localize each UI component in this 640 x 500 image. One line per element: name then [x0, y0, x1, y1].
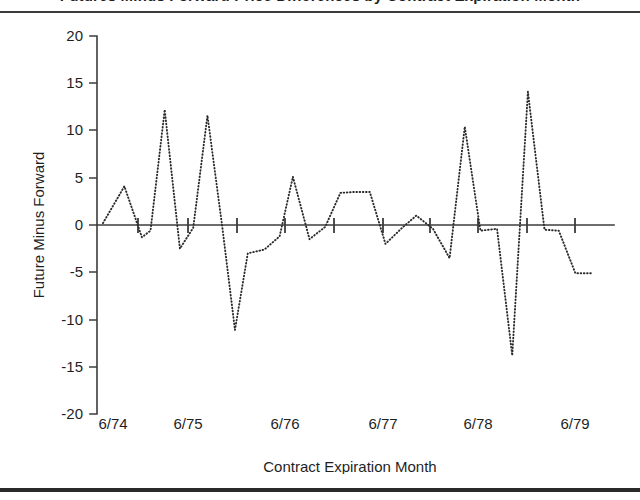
- figure-title-clipped: Futures Minus Forward Price Differences …: [0, 0, 640, 5]
- x-tick-label-677: 6/77: [368, 415, 397, 432]
- x-tick-label-675: 6/75: [173, 415, 202, 432]
- x-tick-label-676: 6/76: [270, 415, 299, 432]
- y-tick-label-neg5: -5: [70, 263, 83, 280]
- plot-area: 20 15 10 5 0 -5 -10 -15 -20 6/74 6/75 6/…: [0, 14, 640, 474]
- x-axis-title: Contract Expiration Month: [263, 458, 436, 474]
- y-tick-label-15: 15: [66, 74, 83, 91]
- top-horizontal-rule: [0, 11, 640, 13]
- figure-title-text: Futures Minus Forward Price Differences …: [60, 0, 580, 4]
- y-tick-label-20: 20: [66, 27, 83, 44]
- y-tick-label-0: 0: [75, 216, 83, 233]
- chart-figure: Futures Minus Forward Price Differences …: [0, 0, 640, 500]
- series-line-future-minus-forward: [103, 92, 592, 356]
- bottom-horizontal-rule: [0, 488, 640, 492]
- y-tick-label-neg10: -10: [61, 311, 83, 328]
- x-tick-label-678: 6/78: [463, 415, 492, 432]
- y-axis-title: Future Minus Forward: [30, 152, 47, 299]
- y-tick-label-neg15: -15: [61, 358, 83, 375]
- y-tick-label-neg20: -20: [61, 405, 83, 422]
- y-tick-label-5: 5: [75, 169, 83, 186]
- x-tick-label-679: 6/79: [560, 415, 589, 432]
- x-tick-label-674: 6/74: [98, 415, 127, 432]
- y-tick-label-10: 10: [66, 121, 83, 138]
